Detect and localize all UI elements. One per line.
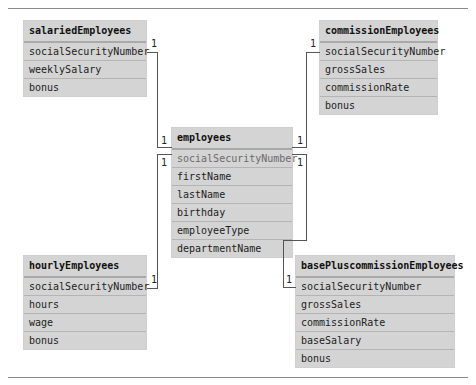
field-employee-type: employeeType	[172, 222, 292, 240]
table-title: salariedEmployees	[24, 21, 146, 43]
cardinality-label: 1	[161, 158, 167, 168]
table-hourly-employees: hourlyEmployees socialSecurityNumber hou…	[24, 256, 146, 349]
field-social-security-number: socialSecurityNumber	[296, 278, 454, 296]
table-title: employees	[172, 128, 292, 150]
cardinality-label: 1	[297, 158, 303, 168]
field-weekly-salary: weeklySalary	[24, 61, 146, 79]
field-social-security-number: socialSecurityNumber	[24, 278, 146, 296]
field-social-security-number: socialSecurityNumber	[24, 43, 146, 61]
field-birthday: birthday	[172, 204, 292, 222]
table-salaried-employees: salariedEmployees socialSecurityNumber w…	[24, 21, 146, 96]
table-employees: employees socialSecurityNumber firstName…	[172, 128, 292, 257]
field-bonus: bonus	[24, 332, 146, 349]
field-bonus: bonus	[296, 350, 454, 367]
cardinality-label: 1	[297, 136, 303, 146]
field-last-name: lastName	[172, 186, 292, 204]
top-rule	[8, 8, 468, 9]
field-commission-rate: commissionRate	[320, 79, 437, 97]
table-title: commissionEmployees	[320, 21, 437, 43]
cardinality-label: 1	[161, 136, 167, 146]
field-department-name: departmentName	[172, 240, 292, 257]
field-wage: wage	[24, 314, 146, 332]
field-gross-sales: grossSales	[320, 61, 437, 79]
field-commission-rate: commissionRate	[296, 314, 454, 332]
bottom-rule	[8, 377, 468, 378]
field-bonus: bonus	[320, 97, 437, 114]
cardinality-label: 1	[151, 39, 157, 49]
table-title: basePluscommissionEmployees	[296, 256, 454, 278]
table-commission-employees: commissionEmployees socialSecurityNumber…	[320, 21, 437, 114]
cardinality-label: 1	[286, 275, 292, 285]
cardinality-label: 1	[151, 275, 157, 285]
field-social-security-number: socialSecurityNumber	[172, 150, 292, 168]
table-title: hourlyEmployees	[24, 256, 146, 278]
field-gross-sales: grossSales	[296, 296, 454, 314]
table-base-plus-commission-employees: basePluscommissionEmployees socialSecuri…	[296, 256, 454, 367]
field-social-security-number: socialSecurityNumber	[320, 43, 437, 61]
field-base-salary: baseSalary	[296, 332, 454, 350]
cardinality-label: 1	[310, 39, 316, 49]
field-hours: hours	[24, 296, 146, 314]
field-first-name: firstName	[172, 168, 292, 186]
field-bonus: bonus	[24, 79, 146, 96]
